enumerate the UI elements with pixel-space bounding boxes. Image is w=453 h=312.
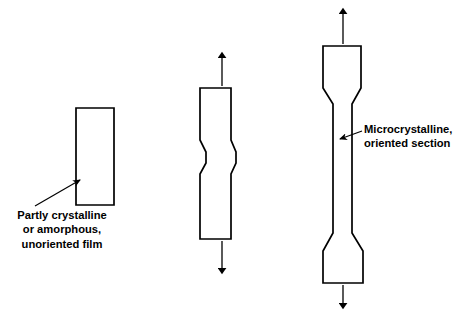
leader-arrow-icon xyxy=(35,180,80,206)
fully-drawn-specimen-outline xyxy=(323,46,363,283)
label-line-1: Partly crystalline xyxy=(4,208,120,222)
unoriented-film-outline xyxy=(76,108,114,205)
unoriented-film-label: Partly crystalline or amorphous, unorien… xyxy=(4,208,120,251)
specimen-necking-group xyxy=(200,57,236,269)
polymer-drawing-diagram xyxy=(0,0,453,312)
specimen-drawn-group xyxy=(323,13,363,304)
figure-canvas: Partly crystalline or amorphous, unorien… xyxy=(0,0,453,312)
oriented-section-label: Microcrystalline, oriented section xyxy=(364,122,452,151)
label-line-2: or amorphous, xyxy=(4,222,120,236)
unoriented-film-leader xyxy=(35,180,80,206)
specimen-unoriented-group xyxy=(76,108,114,205)
necking-specimen-outline xyxy=(200,88,236,239)
label-line-3: unoriented film xyxy=(4,237,120,251)
label-line-1: Microcrystalline, xyxy=(364,122,452,136)
label-line-2: oriented section xyxy=(364,136,452,150)
